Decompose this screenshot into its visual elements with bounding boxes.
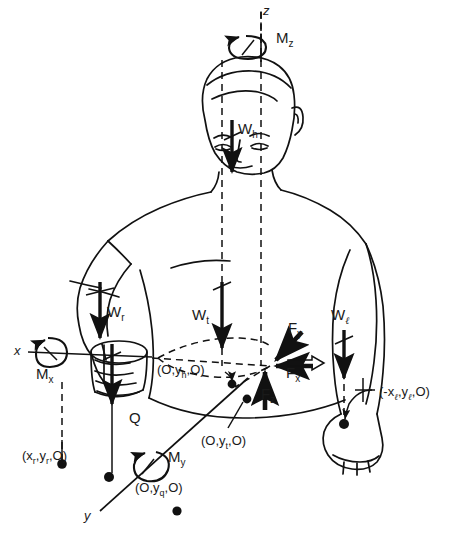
marker-head-cg bbox=[228, 380, 237, 389]
weight-right-symbol: W bbox=[107, 303, 121, 320]
moment-y-loop bbox=[134, 452, 169, 481]
weight-label-right-arm: Wr bbox=[107, 304, 125, 323]
axis-label-x: x bbox=[14, 344, 21, 357]
coord-trunk-prefix: (O,y bbox=[201, 433, 226, 448]
force-label-y: Fy bbox=[288, 320, 302, 339]
moment-z-subscript: z bbox=[289, 38, 294, 49]
leader-head-cg bbox=[225, 372, 232, 381]
weight-left-symbol: W bbox=[331, 306, 345, 323]
coord-head-suffix: ,O) bbox=[187, 362, 205, 377]
marker-left-cg bbox=[339, 419, 349, 429]
weight-label-left-arm: Wℓ bbox=[331, 307, 349, 326]
weight-label-head: Wh bbox=[238, 121, 258, 140]
coord-load-prefix: (O,y bbox=[135, 480, 160, 495]
force-x-symbol: F bbox=[286, 364, 295, 381]
coord-left-suffix: ,O) bbox=[412, 384, 430, 399]
x-axis-line bbox=[28, 352, 152, 357]
load-label-q: Q bbox=[129, 410, 141, 425]
marker-y-axis-point bbox=[172, 506, 181, 515]
force-y-symbol: F bbox=[288, 319, 297, 336]
weight-left-subscript: ℓ bbox=[345, 315, 349, 326]
axis-label-y: y bbox=[84, 509, 91, 522]
marker-load-cg bbox=[104, 472, 114, 482]
moment-x-subscript: x bbox=[49, 374, 54, 385]
moment-y-symbol: M bbox=[168, 448, 181, 465]
weight-head-symbol: W bbox=[238, 120, 252, 137]
weight-trunk-subscript: t bbox=[206, 315, 209, 326]
force-label-x: Fx bbox=[286, 365, 300, 384]
coord-left-mid: ,y bbox=[398, 384, 408, 399]
leader-left-cg bbox=[345, 390, 372, 419]
moment-label-z: Mz bbox=[276, 30, 294, 49]
vectors-layer bbox=[0, 0, 470, 549]
moment-y-subscript: y bbox=[181, 457, 186, 468]
coord-right-prefix: (x bbox=[22, 448, 33, 463]
coord-right-suffix: ,O) bbox=[49, 448, 67, 463]
coord-right-mid: ,y bbox=[36, 448, 46, 463]
force-label-z: Fz bbox=[261, 386, 275, 405]
coord-label-right-arm: (xr,yr,O) bbox=[22, 449, 67, 466]
force-x-subscript: x bbox=[295, 373, 300, 384]
weight-head-subscript: h bbox=[252, 129, 258, 140]
force-z-symbol: F bbox=[261, 385, 270, 402]
moment-z-symbol: M bbox=[276, 29, 289, 46]
moment-x-symbol: M bbox=[36, 365, 49, 382]
weight-right-subscript: r bbox=[121, 312, 124, 323]
figure-canvas: z x y Mz Mx My Fx Fy Fz Wh Wr Wt Wℓ Q (O… bbox=[0, 0, 470, 549]
force-y-subscript: y bbox=[297, 328, 302, 339]
coord-label-head: (O,yh,O) bbox=[157, 363, 205, 380]
coord-head-prefix: (O,y bbox=[157, 362, 182, 377]
moment-label-x: Mx bbox=[36, 366, 54, 385]
coord-label-load: (O,yq,O) bbox=[135, 481, 183, 498]
moment-label-y: My bbox=[168, 449, 186, 468]
coord-left-prefix: (-x bbox=[379, 384, 394, 399]
axis-label-z: z bbox=[263, 4, 270, 17]
weight-label-trunk: Wt bbox=[192, 307, 209, 326]
marker-trunk-cg bbox=[243, 395, 252, 404]
coord-trunk-suffix: ,O) bbox=[228, 433, 246, 448]
leader-trunk-cg bbox=[228, 402, 243, 428]
coord-label-trunk: (O,yt,O) bbox=[201, 434, 246, 451]
coord-load-suffix: ,O) bbox=[165, 480, 183, 495]
coord-label-left-arm: (-xℓ,yℓ,O) bbox=[379, 385, 430, 402]
force-z-subscript: z bbox=[270, 394, 275, 405]
weight-trunk-symbol: W bbox=[192, 306, 206, 323]
